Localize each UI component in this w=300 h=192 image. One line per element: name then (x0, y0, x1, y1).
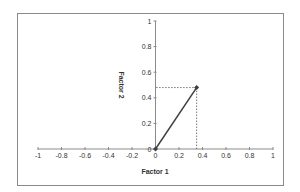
vector-line (156, 88, 197, 149)
y-tick-label: 0.6 (142, 69, 152, 76)
x-tick-label: 0 (154, 152, 158, 159)
chart-plot: -1-0.8-0.6-0.4-0.200.20.40.60.8100.20.40… (0, 0, 300, 192)
y-axis-label: Factor 2 (118, 71, 125, 98)
x-tick-label: -0.4 (102, 152, 114, 159)
series-layer (153, 85, 199, 151)
x-tick-label: 0.4 (198, 152, 208, 159)
x-axis-label: Factor 1 (141, 168, 168, 175)
y-tick-label: 0.8 (142, 43, 152, 50)
x-tick-label: -1 (35, 152, 41, 159)
y-tick-label: 0 (148, 146, 152, 153)
x-tick-label: 0.8 (245, 152, 255, 159)
x-tick-label: 1 (271, 152, 275, 159)
x-tick-label: -0.2 (126, 152, 138, 159)
x-tick-label: 0.6 (221, 152, 231, 159)
y-tick-label: 0.2 (142, 120, 152, 127)
axes (38, 21, 273, 150)
x-tick-label: -0.6 (79, 152, 91, 159)
tick-labels: -1-0.8-0.6-0.4-0.200.20.40.60.8100.20.40… (35, 18, 275, 160)
x-tick-label: 0.2 (174, 152, 184, 159)
y-tick-label: 0.4 (142, 94, 152, 101)
y-tick-label: 1 (148, 18, 152, 25)
x-tick-label: -0.8 (55, 152, 67, 159)
